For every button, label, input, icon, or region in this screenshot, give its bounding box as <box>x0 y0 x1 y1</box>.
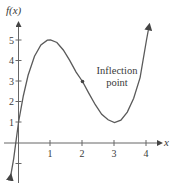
chart-canvas: 1 2 3 4 1 2 3 4 5 f(x) x Inflection poin… <box>0 0 174 185</box>
y-tick-label-5: 5 <box>9 35 14 46</box>
annotation-line-2: point <box>106 77 128 88</box>
inflection-point-marker <box>81 80 85 84</box>
y-tick-label-3: 3 <box>9 76 14 87</box>
x-axis-title: x <box>163 136 169 148</box>
x-tick-label-4: 4 <box>144 148 149 159</box>
y-tick-label-2: 2 <box>9 96 14 107</box>
x-tick-label-2: 2 <box>80 148 85 159</box>
y-tick-label-4: 4 <box>9 55 14 66</box>
y-tick-label-1: 1 <box>9 117 14 128</box>
annotation-line-1: Inflection <box>97 65 139 76</box>
y-axis-title: f(x) <box>6 4 22 17</box>
x-tick-label-3: 3 <box>112 148 117 159</box>
x-tick-label-1: 1 <box>48 148 53 159</box>
